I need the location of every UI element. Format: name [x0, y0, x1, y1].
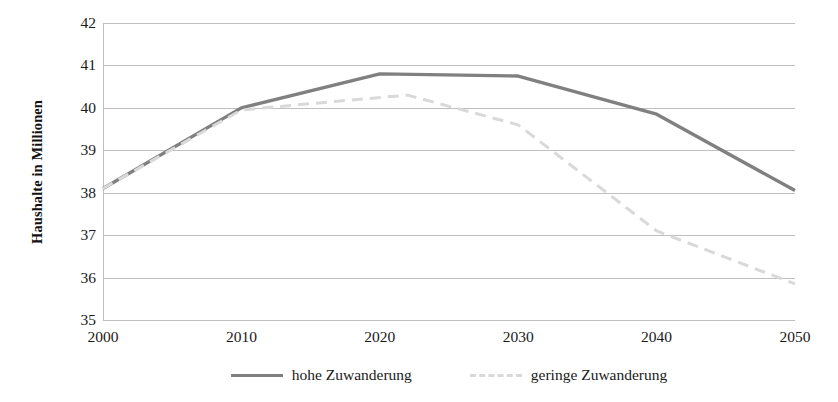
x-axis-tick-label: 2010	[206, 327, 276, 347]
y-axis-tick-label: 41	[56, 57, 96, 73]
plot-area	[103, 23, 795, 320]
series-line	[103, 74, 795, 191]
x-axis-tick-label: 2030	[483, 327, 553, 347]
y-axis-tick-label: 37	[56, 227, 96, 243]
chart-legend: hohe Zuwanderunggeringe Zuwanderung	[103, 360, 795, 390]
y-axis-tick-label: 39	[56, 142, 96, 158]
series-layer	[103, 23, 795, 320]
x-axis-tick-label: 2020	[345, 327, 415, 347]
y-axis-tick-label: 42	[56, 15, 96, 31]
legend-label: hohe Zuwanderung	[292, 365, 412, 385]
x-axis-tick-label: 2040	[622, 327, 692, 347]
legend-label: geringe Zuwanderung	[531, 365, 667, 385]
line-chart: Haushalte in Millionen 4241403938373635 …	[0, 0, 838, 402]
legend-swatch-dashed	[470, 369, 522, 381]
y-axis-title: Haushalte in Millionen	[24, 22, 50, 322]
x-axis-tick-label: 2000	[68, 327, 138, 347]
x-axis-tick-labels: 200020102020203020402050	[103, 327, 795, 351]
gridline	[103, 320, 795, 321]
y-axis-tick-label: 35	[56, 312, 96, 328]
legend-swatch-solid	[231, 369, 283, 381]
y-axis-tick-label: 38	[56, 185, 96, 201]
legend-entry: geringe Zuwanderung	[470, 365, 667, 385]
legend-entry: hohe Zuwanderung	[231, 365, 412, 385]
y-axis-tick-label: 40	[56, 100, 96, 116]
series-line	[103, 95, 795, 284]
x-axis-tick-label: 2050	[760, 327, 830, 347]
y-axis-tick-label: 36	[56, 270, 96, 286]
